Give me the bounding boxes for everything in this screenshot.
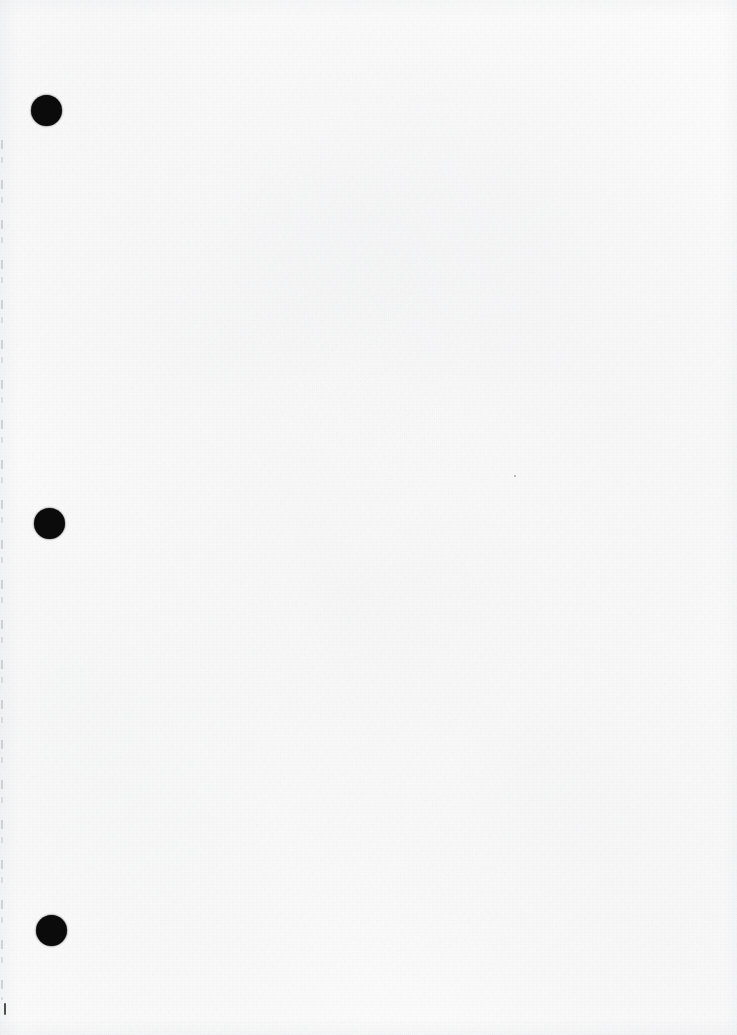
scanned-page <box>0 0 737 1035</box>
bottom-left-tick-mark <box>4 1003 6 1015</box>
binder-hole-3 <box>36 915 67 946</box>
left-edge-scan-line-icon <box>1 140 3 1000</box>
dust-speck <box>514 475 516 477</box>
page-text-content <box>90 60 690 975</box>
binder-hole-2 <box>34 508 65 539</box>
binder-hole-1 <box>31 95 62 126</box>
